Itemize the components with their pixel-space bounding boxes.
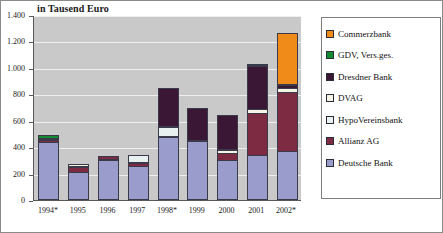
legend-swatch-icon <box>326 137 334 145</box>
gridline <box>34 42 301 43</box>
bar-segment <box>247 66 268 110</box>
legend-label: DVAG <box>338 93 363 103</box>
legend-label: HypoVereinsbank <box>338 115 403 125</box>
y-axis-tick-label: 600 <box>13 117 25 126</box>
y-tick-mark <box>29 69 33 70</box>
y-tick-mark <box>29 95 33 96</box>
bar-column[interactable] <box>217 115 238 200</box>
legend-item[interactable]: HypoVereinsbank <box>326 109 440 131</box>
legend-item[interactable]: Deutsche Bank <box>326 152 440 174</box>
chart-title: in Tausend Euro <box>37 3 109 14</box>
y-axis-tick-label: 0 <box>21 196 25 205</box>
y-tick-mark <box>29 148 33 149</box>
y-axis-tick-label: 400 <box>13 143 25 152</box>
bar-segment <box>277 33 298 85</box>
legend-item[interactable]: DVAG <box>326 88 440 110</box>
bar-column[interactable] <box>98 156 119 200</box>
bar-segment <box>277 151 298 200</box>
plot-area <box>33 16 301 201</box>
bar-segment <box>98 160 119 200</box>
y-axis-tick-label: 800 <box>13 90 25 99</box>
bar-segment <box>128 166 149 200</box>
bar-segment <box>247 113 268 156</box>
bar-segment <box>277 92 298 152</box>
y-axis-tick-label: 1.000 <box>7 64 25 73</box>
y-axis-tick-label: 200 <box>13 170 25 179</box>
legend-label: GDV, Vers.ges. <box>338 50 393 60</box>
bar-segment <box>217 160 238 200</box>
y-axis-tick-label: 1.400 <box>7 11 25 20</box>
legend-swatch-icon <box>326 116 334 124</box>
legend-swatch-icon <box>326 51 334 59</box>
bar-column[interactable] <box>158 88 179 200</box>
bar-segment <box>187 141 208 200</box>
legend-swatch-icon <box>326 73 334 81</box>
bar-column[interactable] <box>38 135 59 200</box>
y-tick-mark <box>29 122 33 123</box>
legend-item[interactable]: Commerzbank <box>326 23 440 45</box>
bar-segment <box>158 88 179 126</box>
legend-label: Commerzbank <box>338 29 391 39</box>
legend-item[interactable]: Dresdner Bank <box>326 66 440 88</box>
y-tick-mark <box>29 42 33 43</box>
bar-segment <box>187 108 208 141</box>
bar-column[interactable] <box>247 64 268 200</box>
y-tick-mark <box>29 16 33 17</box>
bar-segment <box>128 155 149 164</box>
bar-column[interactable] <box>128 155 149 200</box>
bar-segment <box>158 137 179 200</box>
y-tick-mark <box>29 201 33 202</box>
chart-figure: in Tausend Euro 02004006008001.0001.2001… <box>0 0 443 233</box>
bar-segment <box>38 142 59 200</box>
legend-swatch-icon <box>326 30 334 38</box>
legend-swatch-icon <box>326 159 334 167</box>
x-axis-tick-label: 2002* <box>266 206 306 215</box>
legend-item[interactable]: Allianz AG <box>326 131 440 153</box>
gridline <box>34 16 301 17</box>
legend-item[interactable]: GDV, Vers.ges. <box>326 45 440 67</box>
legend-label: Deutsche Bank <box>338 158 393 168</box>
bar-column[interactable] <box>277 33 298 200</box>
bar-segment <box>217 115 238 150</box>
y-axis-tick-label: 1.200 <box>7 37 25 46</box>
bar-segment <box>68 172 89 200</box>
legend-label: Dresdner Bank <box>338 72 392 82</box>
bar-column[interactable] <box>68 164 89 200</box>
legend-label: Allianz AG <box>338 136 379 146</box>
legend-swatch-icon <box>326 94 334 102</box>
bar-column[interactable] <box>187 108 208 200</box>
bar-segment <box>247 155 268 200</box>
chart-legend: CommerzbankGDV, Vers.ges.Dresdner BankDV… <box>321 17 441 199</box>
y-tick-mark <box>29 175 33 176</box>
